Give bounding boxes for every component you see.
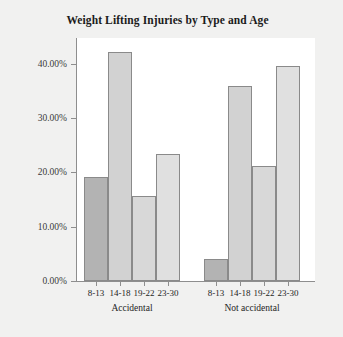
y-tick-label: 10.00% — [5, 222, 67, 232]
x-tick-label: 23-30 — [278, 288, 299, 298]
chart-title: Weight Lifting Injuries by Type and Age — [0, 14, 335, 26]
bar — [228, 86, 252, 281]
bar — [276, 66, 300, 281]
y-tick-label: 30.00% — [5, 113, 67, 123]
bar — [108, 52, 132, 281]
x-axis-line — [76, 281, 315, 282]
y-tick-mark — [71, 227, 76, 228]
y-tick-mark — [71, 64, 76, 65]
x-tick-mark — [168, 282, 169, 286]
y-tick-mark — [71, 281, 76, 282]
bar — [252, 166, 276, 281]
x-tick-mark — [216, 282, 217, 286]
y-tick-label: 40.00% — [5, 59, 67, 69]
x-tick-mark — [96, 282, 97, 286]
x-tick-label: 19-22 — [254, 288, 275, 298]
chart-figure: Weight Lifting Injuries by Type and Age … — [0, 0, 343, 337]
x-tick-label: 8-13 — [208, 288, 225, 298]
x-tick-mark — [288, 282, 289, 286]
bar — [156, 154, 180, 281]
group-label: Accidental — [111, 303, 152, 313]
x-tick-label: 23-30 — [158, 288, 179, 298]
bar — [84, 177, 108, 281]
x-tick-mark — [120, 282, 121, 286]
y-tick-label: 20.00% — [5, 167, 67, 177]
y-tick-mark — [71, 118, 76, 119]
bar — [204, 259, 228, 281]
y-axis-line — [76, 38, 77, 281]
x-tick-label: 8-13 — [88, 288, 105, 298]
bar — [132, 196, 156, 281]
y-tick-mark — [71, 172, 76, 173]
x-tick-label: 19-22 — [134, 288, 155, 298]
group-label: Not accidental — [224, 303, 279, 313]
x-tick-label: 14-18 — [230, 288, 251, 298]
x-tick-mark — [240, 282, 241, 286]
x-tick-label: 14-18 — [110, 288, 131, 298]
y-tick-label: 0.00% — [5, 276, 67, 286]
x-tick-mark — [264, 282, 265, 286]
x-tick-mark — [144, 282, 145, 286]
